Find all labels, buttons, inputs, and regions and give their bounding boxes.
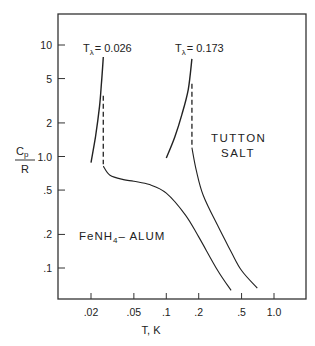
salt-label: SALT <box>221 147 255 159</box>
alum-label: FeNH4– ALUM <box>79 230 165 245</box>
tutton-curve-above-transition <box>192 148 257 288</box>
y-axis-ticks: 10521.0.5.2.1 <box>37 39 65 274</box>
heat-capacity-chart: .02.05.1.2.51.0 10521.0.5.2.1 Tλ= 0.026 … <box>0 0 315 346</box>
x-axis-ticks: .02.05.1.2.51.0 <box>84 293 282 318</box>
y-tick-label: 2 <box>46 117 52 129</box>
tutton-curve-below-transition <box>166 59 192 158</box>
tutton-label: TUTTON <box>211 132 266 144</box>
y-label-denominator: R <box>21 163 29 175</box>
x-tick-label: .5 <box>237 306 246 318</box>
y-tick-label: 5 <box>46 73 52 85</box>
y-tick-label: .5 <box>43 184 52 196</box>
t-lambda-label-alum: Tλ= 0.026 <box>83 42 132 57</box>
x-tick-label: 1.0 <box>267 306 282 318</box>
t-lambda-label-tutton: Tλ= 0.173 <box>175 42 224 57</box>
y-tick-label: .2 <box>43 228 52 240</box>
alum-curve-above-transition <box>103 166 231 290</box>
y-axis-label: Cp R <box>15 145 35 175</box>
data-curves <box>91 57 257 290</box>
y-label-numerator: Cp <box>16 145 29 159</box>
chart-svg: .02.05.1.2.51.0 10521.0.5.2.1 Tλ= 0.026 … <box>0 0 315 346</box>
x-tick-label: .1 <box>162 306 171 318</box>
y-tick-label: 10 <box>40 39 52 51</box>
y-tick-label: .1 <box>43 262 52 274</box>
x-tick-label: .05 <box>127 306 142 318</box>
x-tick-label: .02 <box>84 306 99 318</box>
x-tick-label: .2 <box>194 306 203 318</box>
alum-curve-below-transition <box>91 57 103 163</box>
x-axis-label: T, K <box>142 324 162 336</box>
y-tick-label: 1.0 <box>37 151 52 163</box>
